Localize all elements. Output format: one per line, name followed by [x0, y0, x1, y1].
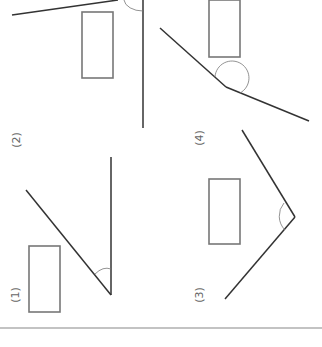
answer-box-1[interactable]: [29, 246, 60, 312]
label-1: (1): [9, 287, 22, 303]
label-4: (4): [193, 130, 206, 146]
worksheet-canvas: (2) (4) (1) (3): [0, 0, 322, 347]
label-3: (3): [193, 287, 206, 303]
problem-2: (2): [10, 0, 143, 148]
angle-3-ray-a: [242, 130, 295, 217]
angle-4-arc: [215, 61, 249, 93]
problem-3: (3): [193, 130, 295, 303]
angle-2-arc: [124, 0, 143, 11]
angle-3-arc: [279, 203, 285, 230]
answer-box-4[interactable]: [209, 0, 240, 57]
label-2: (2): [10, 132, 23, 148]
problem-4: (4): [160, 0, 309, 146]
answer-box-2[interactable]: [82, 12, 113, 78]
angle-1-arc: [95, 268, 111, 274]
answer-box-3[interactable]: [209, 179, 240, 244]
problem-1: (1): [9, 157, 111, 312]
angle-4-ray-b: [226, 87, 309, 121]
